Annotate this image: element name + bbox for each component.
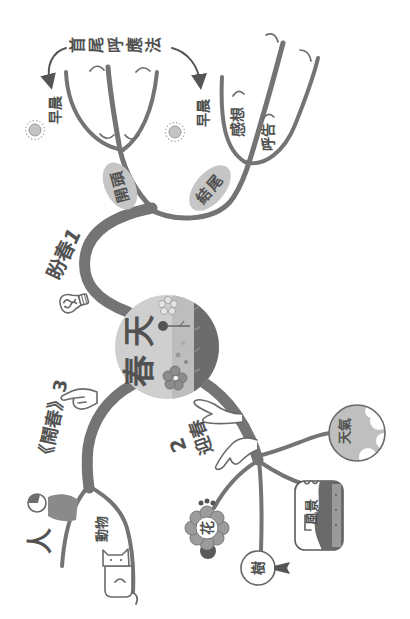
ending-feelings-label: 感想 bbox=[229, 107, 247, 137]
branch-1-main-line bbox=[85, 208, 152, 312]
sun-icon bbox=[26, 121, 45, 140]
people-label: 人 bbox=[25, 528, 55, 554]
ending-appeal-label: 呼告 bbox=[260, 123, 276, 151]
branch-3-label: 《鬧春》3 bbox=[33, 377, 71, 464]
tree-label: 樹 bbox=[250, 561, 266, 575]
sun-icon bbox=[166, 123, 185, 142]
blank-slot-mark bbox=[266, 34, 278, 42]
arrow-to-opening-icon bbox=[49, 48, 66, 82]
echo-annotation-label: 首尾呼應法 bbox=[68, 37, 164, 56]
blank-slot-mark bbox=[90, 66, 104, 71]
landscape-card-icon bbox=[295, 481, 343, 550]
scenery-label: 風景 bbox=[304, 499, 319, 525]
ending-morning-label: 早晨 bbox=[195, 98, 211, 127]
animals-label: 動物 bbox=[94, 516, 109, 542]
central-topic-label: 春天 bbox=[120, 307, 158, 387]
branch-2-weather-line bbox=[258, 433, 330, 456]
branch-3-title: 鬧春 bbox=[37, 406, 65, 447]
arrow-to-ending-icon bbox=[172, 48, 200, 82]
echo-annotation: 首尾呼應法 bbox=[49, 37, 200, 83]
weather-label: 天氣 bbox=[337, 418, 352, 444]
branch-2-tree-line bbox=[259, 460, 262, 551]
flower-label: 花 bbox=[199, 521, 215, 535]
lightbulb-icon bbox=[58, 289, 90, 314]
blank-slot-mark bbox=[233, 91, 244, 96]
blank-slot-mark bbox=[300, 50, 311, 61]
central-topic: 春天 bbox=[115, 290, 224, 410]
person-icon bbox=[28, 494, 78, 521]
branch-3-celebrating-spring: 《鬧春》3 人 動物 bbox=[25, 377, 137, 604]
branch-2-welcoming-spring: 迎春 2 天氣 風景 bbox=[164, 382, 392, 585]
opening-morning-label: 早晨 bbox=[47, 95, 63, 124]
spring-mind-map: 開頭 結尾 早晨 早晨 感想 呼告 盼春1 bbox=[0, 0, 410, 619]
blank-slot-mark bbox=[136, 68, 150, 72]
ending-node: 結尾 bbox=[181, 158, 239, 219]
branch-1-label: 盼春1 bbox=[42, 224, 87, 283]
branch-1-longing-spring: 開頭 結尾 早晨 早晨 感想 呼告 盼春1 bbox=[26, 34, 319, 315]
branch-2-number: 2 bbox=[164, 434, 191, 455]
branch-2-scenery-line bbox=[260, 462, 304, 484]
blank-slot-mark bbox=[100, 134, 114, 138]
